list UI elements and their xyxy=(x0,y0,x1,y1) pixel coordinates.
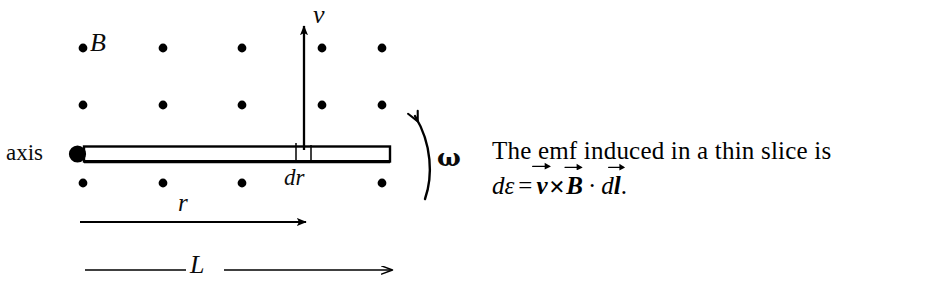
field-dot xyxy=(318,44,327,53)
field-dot xyxy=(79,44,88,53)
field-dot xyxy=(238,44,247,53)
slice-width-label: dr xyxy=(284,166,304,189)
field-dot-grid xyxy=(79,44,387,188)
field-dot xyxy=(159,179,168,188)
conducting-rod xyxy=(84,147,390,162)
formula-field-vector: B xyxy=(566,169,583,203)
omega-arc-arrow xyxy=(415,116,430,199)
formula-d2: d xyxy=(601,172,614,199)
field-dot xyxy=(318,101,327,110)
angular-velocity-label: ω xyxy=(437,145,461,170)
field-dot xyxy=(238,101,247,110)
field-dot xyxy=(159,44,168,53)
caption-block: The emf induced in a thin slice is dε=v✕… xyxy=(492,136,942,202)
pivot-point xyxy=(69,145,86,162)
formula-cross-product: ✕ xyxy=(548,175,567,199)
field-dot xyxy=(159,101,168,110)
field-dot xyxy=(79,179,88,188)
formula-equals: = xyxy=(514,172,536,199)
axis-label: axis xyxy=(6,141,43,164)
caption-text: The emf induced in a thin slice is xyxy=(492,136,942,167)
velocity-label: v xyxy=(313,2,325,28)
physics-figure: axis B v dr r L ω The emf induced in a t… xyxy=(0,0,952,290)
field-dot xyxy=(378,179,387,188)
field-dot xyxy=(238,179,247,188)
formula-period: . xyxy=(621,172,627,199)
field-dot xyxy=(79,101,88,110)
formula-length-vector: l xyxy=(614,169,621,203)
emf-formula: dε=v✕B·dl. xyxy=(492,169,942,203)
formula-d1: d xyxy=(492,172,505,199)
formula-epsilon: ε xyxy=(505,172,515,199)
magnetic-field-label: B xyxy=(90,30,106,56)
field-dot xyxy=(378,44,387,53)
formula-velocity-vector: v xyxy=(536,169,547,203)
length-label: L xyxy=(190,252,204,278)
field-dot xyxy=(378,101,387,110)
radius-label: r xyxy=(178,190,188,215)
formula-dot-product: · xyxy=(583,172,601,199)
